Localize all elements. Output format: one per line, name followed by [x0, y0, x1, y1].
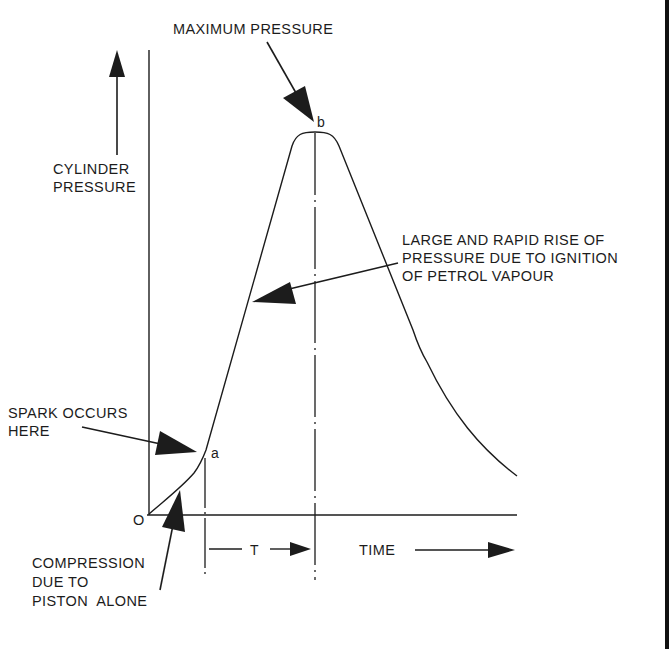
rapid-rise-label-line1: LARGE AND RAPID RISE OF [402, 231, 605, 249]
interval-arrow-icon [209, 542, 311, 556]
pressure-curve [149, 132, 517, 514]
y-axis-label-line1: CYLINDER [53, 160, 130, 178]
page-edge [665, 0, 669, 649]
compression-arrow-icon [160, 490, 185, 590]
y-direction-arrow-icon [109, 50, 125, 155]
x-axis-label: TIME [359, 541, 395, 559]
interval-label: T [250, 541, 259, 559]
max-pressure-label: MAXIMUM PRESSURE [173, 20, 333, 38]
max-pressure-arrow-icon [267, 42, 314, 122]
compression-label-line3: PISTON ALONE [32, 592, 147, 610]
peak-point-label: b [317, 113, 325, 131]
time-arrow-icon [415, 542, 515, 558]
y-axis-label-line2: PRESSURE [53, 178, 136, 196]
spark-label-line1: SPARK OCCURS [8, 404, 128, 422]
origin-label: O [133, 511, 145, 529]
pressure-time-diagram [0, 0, 669, 649]
compression-label-line2: DUE TO [32, 573, 89, 591]
spark-arrow-icon [82, 427, 197, 455]
rapid-rise-label-line2: PRESSURE DUE TO IGNITION [402, 249, 618, 267]
spark-point-label: a [211, 444, 219, 462]
rapid-rise-label-line3: OF PETROL VAPOUR [402, 267, 554, 285]
compression-label-line1: COMPRESSION [32, 554, 145, 572]
rapid-rise-arrow-icon [252, 263, 398, 304]
spark-label-line2: HERE [8, 422, 50, 440]
